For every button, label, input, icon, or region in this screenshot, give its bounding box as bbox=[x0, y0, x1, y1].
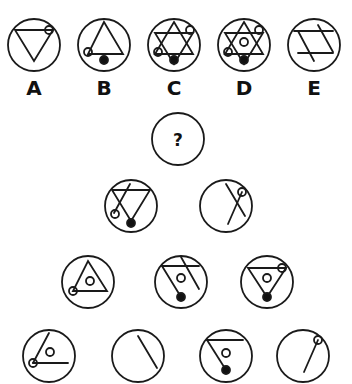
pyramid-cell-4-2 bbox=[112, 330, 164, 382]
option-b-label: B bbox=[96, 76, 111, 100]
pyramid-cell-4-3 bbox=[200, 330, 252, 382]
option-c-figure[interactable] bbox=[148, 19, 200, 71]
pyramid-cell-2-1 bbox=[105, 180, 157, 232]
option-c-label: C bbox=[167, 76, 182, 100]
pyramid-cell-3-1 bbox=[62, 256, 114, 308]
option-a-figure[interactable] bbox=[8, 19, 60, 71]
option-d-figure[interactable] bbox=[218, 19, 270, 71]
pyramid-cell-4-4 bbox=[277, 330, 329, 382]
pyramid-cell-4-1 bbox=[23, 330, 75, 382]
pyramid-cell-3-2 bbox=[155, 256, 207, 308]
pyramid-cell-2-2 bbox=[200, 180, 252, 232]
option-b-figure[interactable] bbox=[78, 19, 130, 71]
puzzle-figure: A B C D E ? bbox=[0, 0, 352, 384]
option-e-label: E bbox=[307, 76, 321, 100]
option-a-label: A bbox=[26, 76, 42, 100]
option-d-label: D bbox=[236, 76, 253, 100]
question-mark: ? bbox=[173, 130, 183, 150]
option-e-figure[interactable] bbox=[288, 19, 340, 71]
pyramid-cell-3-3 bbox=[241, 256, 293, 308]
